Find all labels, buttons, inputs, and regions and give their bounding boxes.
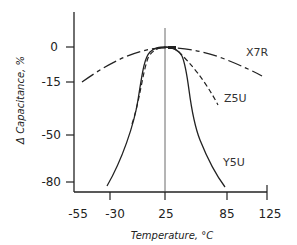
- y-tick-label: -50: [41, 128, 61, 142]
- peak-marker: [168, 46, 176, 49]
- x-tick-label: 85: [219, 207, 234, 221]
- series-label-x7r: X7R: [246, 46, 269, 59]
- series-label-z5u: Z5U: [224, 92, 247, 105]
- x-tick-label: -55: [68, 207, 88, 221]
- y-tick-label: -80: [41, 175, 61, 189]
- y-axis-title: Δ Capacitance, %: [15, 56, 26, 145]
- series-z5u-line: [132, 47, 218, 124]
- y-tick-label: -15: [41, 75, 61, 89]
- series-x7r-line: [82, 48, 262, 82]
- x-tick-label: 125: [259, 207, 282, 221]
- y-tick-label: 0: [50, 40, 58, 54]
- series-label-y5u: Y5U: [222, 156, 245, 169]
- x-tick-label: -30: [105, 207, 125, 221]
- x-tick-label: 25: [158, 207, 173, 221]
- x-axis-title: Temperature, °C: [131, 230, 213, 241]
- capacitance-temperature-chart: 0 -15 -50 -80 -55 -30 25 85 125 Temperat…: [0, 0, 297, 245]
- series-y5u-line: [107, 47, 225, 187]
